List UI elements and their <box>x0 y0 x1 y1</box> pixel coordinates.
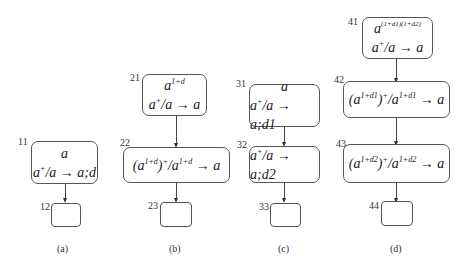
node-23 <box>160 202 192 227</box>
caption-d: (d) <box>390 243 402 254</box>
expr-sup: 1+d <box>144 157 157 166</box>
expr-text: (a <box>133 158 145 173</box>
caption-c: (c) <box>278 243 289 254</box>
caption-a: (a) <box>57 243 68 254</box>
edge-21-22 <box>176 116 177 146</box>
expr-text: /a → a;d <box>45 165 96 180</box>
caption-b: (b) <box>169 243 181 254</box>
expr-sup: 1+d2 <box>360 155 377 164</box>
node-41-line1: a(1+d1)(1+d2) <box>374 19 421 38</box>
expr-text: /a → a <box>384 40 423 55</box>
expr-text: (a <box>349 156 361 171</box>
expr-text: a <box>250 148 257 163</box>
node-32: a+/a → a;d2 <box>249 146 320 183</box>
node-21-line1: a1+d <box>164 76 184 95</box>
node-31-line1: a <box>281 77 288 96</box>
node-21: a1+d a+/a → a <box>142 74 207 116</box>
node-11-line2: a+/a → a;d <box>33 163 96 182</box>
node-label-11: 11 <box>18 136 28 147</box>
expr-text: a <box>61 146 68 161</box>
expr-text: /a <box>388 92 399 107</box>
expr-sup: (1+d1)(1+d2) <box>381 20 421 28</box>
expr-text: /a <box>388 156 399 171</box>
expr-text: (a <box>349 92 361 107</box>
node-label-21: 21 <box>130 72 140 83</box>
node-42: (a1+d1)+/a1+d1 → a <box>343 81 450 118</box>
expr-text: a <box>372 40 379 55</box>
expr-text: → a <box>192 158 220 173</box>
node-41-line2: a+/a → a <box>372 38 423 57</box>
node-21-line2: a+/a → a <box>149 95 200 114</box>
expr-text: a <box>281 79 288 94</box>
node-41: a(1+d1)(1+d2) a+/a → a <box>362 17 433 59</box>
expr-sup: 1+d <box>179 157 192 166</box>
expr-text: a <box>149 97 156 112</box>
expr-sup: 1+d1 <box>360 91 377 100</box>
expr-text: a <box>250 98 257 113</box>
expr-text: /a → a <box>161 97 200 112</box>
node-label-41: 41 <box>348 16 358 27</box>
node-label-32: 32 <box>237 139 247 150</box>
node-33 <box>270 203 301 227</box>
node-12 <box>51 203 81 227</box>
node-22: (a1+d)+/a1+d → a <box>123 147 230 183</box>
node-44 <box>381 201 413 226</box>
node-label-12: 12 <box>40 201 50 212</box>
node-label-23: 23 <box>148 200 158 211</box>
expr-text: a <box>33 165 40 180</box>
expr-text: /a <box>168 158 179 173</box>
node-43: (a1+d2)+/a1+d2 → a <box>343 144 450 183</box>
expr-text: → a <box>416 92 444 107</box>
node-label-44: 44 <box>369 200 379 211</box>
expr-sup: 1+d2 <box>399 155 416 164</box>
node-22-expr: (a1+d)+/a1+d → a <box>133 156 220 175</box>
node-43-expr: (a1+d2)+/a1+d2 → a <box>349 154 444 173</box>
expr-text: → a <box>416 156 444 171</box>
node-11: a a+/a → a;d <box>31 141 98 184</box>
node-label-31: 31 <box>236 78 246 89</box>
node-31: a a+/a → a;d1 <box>249 84 320 127</box>
node-42-expr: (a1+d1)+/a1+d1 → a <box>349 90 444 109</box>
node-11-line1: a <box>61 144 68 163</box>
expr-sup: 1+d1 <box>399 91 416 100</box>
expr-sup: 1+d <box>171 77 184 86</box>
node-label-42: 42 <box>334 74 344 85</box>
node-label-33: 33 <box>259 201 269 212</box>
node-32-line: a+/a → a;d2 <box>250 146 319 184</box>
